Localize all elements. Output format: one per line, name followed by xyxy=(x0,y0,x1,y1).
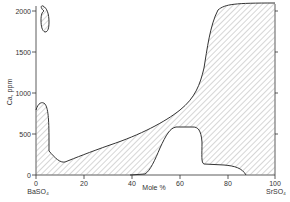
right-axis xyxy=(275,4,278,175)
hatched-island-region xyxy=(41,6,49,32)
y-axis-label: Ca, ppm xyxy=(6,79,14,106)
phase-diagram-chart: 2000 1500 1000 500 0 Ca, ppm 0 20 40 60 … xyxy=(0,0,290,202)
y-tick-1000: 1000 xyxy=(15,90,31,97)
x-tick-40: 40 xyxy=(128,180,136,187)
hatched-main-region xyxy=(36,3,275,175)
x-tick-20: 20 xyxy=(80,180,88,187)
x-right-end-label: SrSO₄ xyxy=(266,188,286,195)
x-tick-100: 100 xyxy=(269,180,281,187)
y-tick-0: 0 xyxy=(27,172,31,179)
x-tick-80: 80 xyxy=(224,180,232,187)
x-tick-60: 60 xyxy=(176,180,184,187)
y-tick-500: 500 xyxy=(19,131,31,138)
y-tick-1500: 1500 xyxy=(15,49,31,56)
x-axis: 0 20 40 60 80 100 Mole % BaSO₄ SrSO₄ xyxy=(27,175,286,195)
x-axis-label: Mole % xyxy=(142,184,165,191)
x-left-end-label: BaSO₄ xyxy=(27,188,49,195)
y-axis: 2000 1500 1000 500 0 Ca, ppm xyxy=(6,6,36,179)
y-tick-2000: 2000 xyxy=(15,8,31,15)
x-tick-0: 0 xyxy=(34,180,38,187)
